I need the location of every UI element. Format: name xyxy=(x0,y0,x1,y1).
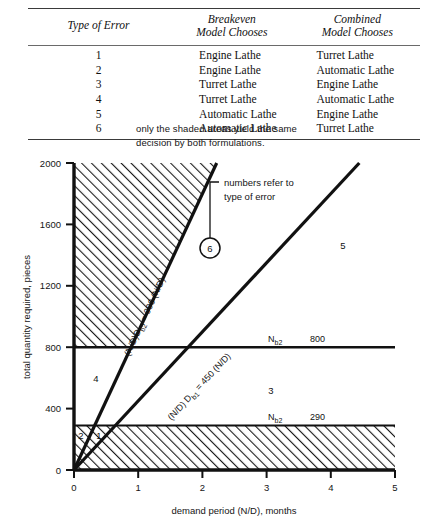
y-axis-title: total quantity required, pieces xyxy=(21,255,32,379)
chart-svg: 2000 1600 1200 800 400 0 0 1 2 3 4 5 dem… xyxy=(0,112,448,525)
chart-caption-line2: decision by both formulations. xyxy=(136,136,366,150)
table-row: 2 Engine Lathe Automatic Lathe xyxy=(28,63,420,78)
breakeven-chart: only the shaded areas yield the same dec… xyxy=(0,112,448,525)
region-label-3: 3 xyxy=(268,385,273,396)
header-combined-line2: Model Chooses xyxy=(295,26,420,39)
table-row: 1 Engine Lathe Turret Lathe xyxy=(28,49,420,64)
table-header-row: Type of Error Breakeven Model Chooses Co… xyxy=(28,9,420,44)
label-nb2-290: Nb2 290 xyxy=(268,412,325,424)
chart-caption: only the shaded areas yield the same dec… xyxy=(136,122,366,150)
table-row: 4 Turret Lathe Automatic Lathe xyxy=(28,92,420,107)
label-nb2-290-sub: b2 xyxy=(275,417,283,424)
header-type-of-error-line1: Type of Error xyxy=(28,19,169,32)
callout-line2: type of error xyxy=(224,191,275,202)
label-nb2-800: Nb2 800 xyxy=(268,334,325,346)
header-breakeven-line1: Breakeven xyxy=(169,13,294,26)
region-label-6: 6 xyxy=(207,243,212,254)
region-label-5: 5 xyxy=(340,240,345,251)
cell-combined: Automatic Lathe xyxy=(295,92,420,107)
label-db1-450-rest: = 450 (N/D) xyxy=(192,351,233,394)
y-tick-label: 400 xyxy=(45,403,61,414)
y-tick-label: 2000 xyxy=(40,158,61,169)
cell-combined: Turret Lathe xyxy=(295,49,420,64)
label-nb2-800-value: 800 xyxy=(310,334,325,344)
x-tick-label: 4 xyxy=(328,482,333,493)
x-tick-labels: 0 1 2 3 4 5 xyxy=(71,482,397,493)
x-tick-label: 3 xyxy=(264,482,269,493)
y-tick-label: 1600 xyxy=(40,219,61,230)
y-tick-label: 0 xyxy=(56,465,61,476)
cell-type: 4 xyxy=(28,92,169,107)
x-tick-label: 0 xyxy=(71,482,76,493)
label-nb2-290-value: 290 xyxy=(310,412,325,422)
shaded-regions xyxy=(74,163,395,470)
header-type-of-error: Type of Error xyxy=(28,9,169,44)
cell-type: 2 xyxy=(28,63,169,78)
cell-combined: Automatic Lathe xyxy=(295,63,420,78)
region-label-1: 1 xyxy=(96,430,101,441)
label-nb2-800-sub: b2 xyxy=(275,339,283,346)
x-tick-label: 1 xyxy=(136,482,141,493)
table-row: 3 Turret Lathe Engine Lathe xyxy=(28,78,420,93)
y-tick-label: 800 xyxy=(45,342,61,353)
svg-text:Nb2: Nb2 xyxy=(268,412,282,424)
x-axis-title: demand period (N/D), months xyxy=(171,505,296,516)
error-table: Type of Error Breakeven Model Chooses Co… xyxy=(28,9,420,44)
region-label-4: 4 xyxy=(93,373,98,384)
cell-breakeven: Turret Lathe xyxy=(169,78,294,93)
region-label-2: 2 xyxy=(78,430,83,441)
chart-caption-line1: only the shaded areas yield the same xyxy=(136,122,366,136)
cell-breakeven: Engine Lathe xyxy=(169,49,294,64)
cell-breakeven: Engine Lathe xyxy=(169,63,294,78)
x-tick-label: 2 xyxy=(200,482,205,493)
callout-line1: numbers refer to xyxy=(224,177,294,188)
cell-combined: Engine Lathe xyxy=(295,78,420,93)
svg-text:Nb2: Nb2 xyxy=(268,334,282,346)
header-combined-line1: Combined xyxy=(295,13,420,26)
y-tick-label: 1200 xyxy=(40,280,61,291)
shaded-region-bottom-band xyxy=(74,426,395,471)
cell-type: 3 xyxy=(28,78,169,93)
cell-breakeven: Turret Lathe xyxy=(169,92,294,107)
table-header-rule xyxy=(28,45,420,46)
x-tick-label: 5 xyxy=(392,482,397,493)
cell-type: 1 xyxy=(28,49,169,64)
header-breakeven-line2: Model Chooses xyxy=(169,26,294,39)
y-tick-labels: 2000 1600 1200 800 400 0 xyxy=(40,158,61,476)
callout-numbers-refer-to-type-of-error: numbers refer to type of error 6 xyxy=(200,177,294,258)
header-breakeven-model: Breakeven Model Chooses xyxy=(169,9,294,44)
header-combined-model: Combined Model Chooses xyxy=(295,9,420,44)
